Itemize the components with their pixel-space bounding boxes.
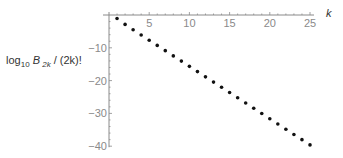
data-point — [276, 122, 280, 126]
data-point — [228, 91, 232, 95]
data-point — [300, 138, 304, 142]
data-point — [292, 133, 296, 137]
y-tick-label: −30 — [88, 107, 107, 119]
data-point — [155, 44, 159, 48]
ticks: 510152025−10−20−30−40 — [88, 12, 316, 152]
x-tick-label: 20 — [264, 17, 276, 29]
y-axis-label: log10 B 2k / (2k)! — [6, 54, 82, 69]
x-tick-label: 15 — [223, 17, 235, 29]
data-point — [268, 117, 272, 121]
x-tick-label: 5 — [146, 17, 152, 29]
data-point — [284, 127, 288, 131]
data-point — [139, 33, 143, 37]
y-tick-label: −20 — [88, 75, 107, 87]
axes — [103, 12, 314, 147]
data-point — [147, 38, 151, 42]
data-point — [163, 49, 167, 53]
data-point — [180, 59, 184, 63]
data-point — [204, 75, 208, 79]
data-point — [252, 106, 256, 110]
data-points — [115, 17, 312, 147]
data-point — [220, 86, 224, 90]
data-point — [212, 80, 216, 84]
x-tick-label: 25 — [304, 17, 316, 29]
x-axis-label: k — [326, 7, 332, 19]
data-point — [188, 65, 192, 69]
data-point — [172, 54, 176, 58]
y-tick-label: −10 — [88, 42, 107, 54]
data-point — [308, 143, 312, 147]
data-point — [260, 112, 264, 116]
data-point — [123, 23, 127, 27]
data-point — [131, 28, 135, 32]
chart: 510152025−10−20−30−40 k log10 B 2k / (2k… — [0, 0, 343, 158]
y-tick-label: −40 — [88, 140, 107, 152]
data-point — [244, 101, 248, 105]
data-point — [115, 17, 119, 21]
data-point — [196, 70, 200, 74]
x-tick-label: 10 — [183, 17, 195, 29]
data-point — [236, 96, 240, 100]
